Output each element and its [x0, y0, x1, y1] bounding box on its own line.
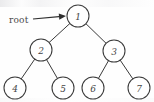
tree-node-4: 4	[4, 77, 26, 99]
tree-edge	[49, 23, 70, 42]
tree-edge	[86, 24, 106, 44]
root-pointer-label: root	[9, 15, 29, 25]
tree-node-6: 6	[82, 77, 104, 99]
tree-node-1: 1	[67, 5, 89, 27]
node-label-2: 2	[37, 46, 44, 56]
node-label-6: 6	[90, 84, 96, 94]
tree-node-5: 5	[52, 77, 74, 99]
node-label-7: 7	[136, 84, 142, 94]
node-label-1: 1	[75, 12, 81, 22]
node-label-3: 3	[111, 47, 117, 57]
root-arrow-group	[33, 14, 66, 20]
tree-node-2: 2	[30, 39, 52, 61]
tree-edge	[47, 60, 58, 79]
node-label-5: 5	[60, 84, 66, 94]
tree-node-7: 7	[128, 77, 150, 99]
root-arrow-head	[59, 14, 66, 20]
tree-diagram-canvas: 1234567 root	[0, 0, 154, 102]
binary-tree-figure: 1234567 root	[0, 0, 154, 102]
tree-edge	[120, 60, 133, 79]
tree-node-3: 3	[103, 40, 125, 62]
root-arrow-shaft	[33, 17, 59, 19]
tree-edge	[21, 59, 35, 79]
tree-edge	[98, 61, 108, 79]
node-label-4: 4	[11, 84, 18, 94]
